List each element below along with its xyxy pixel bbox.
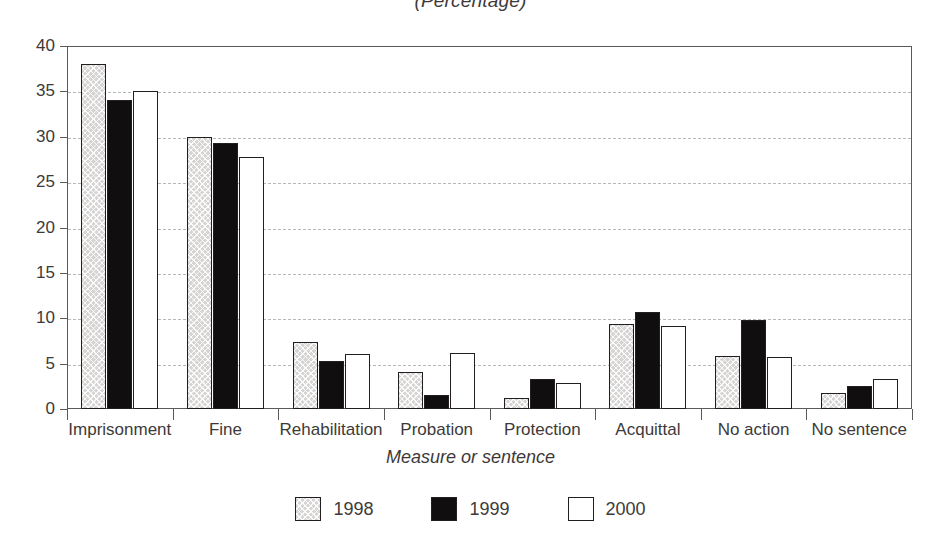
x-tick-label: Imprisonment: [68, 420, 171, 440]
x-tick-label: Rehabilitation: [280, 420, 383, 440]
gridline: [68, 319, 911, 320]
x-axis-title: Measure or sentence: [0, 447, 941, 468]
y-tick-label: 25: [11, 172, 55, 192]
y-tick-mark: [60, 228, 67, 229]
y-tick-label: 15: [11, 263, 55, 283]
y-tick-mark: [60, 137, 67, 138]
x-tick-mark: [806, 409, 807, 420]
x-tick-mark: [490, 409, 491, 420]
y-tick-mark: [60, 91, 67, 92]
x-tick-mark: [595, 409, 596, 420]
chart-legend: 199819992000: [0, 497, 941, 521]
y-tick-label: 35: [11, 81, 55, 101]
chart-page: (Percentage) 0510152025303540 Percentage…: [0, 0, 941, 547]
gridline: [68, 138, 911, 139]
y-tick-mark: [60, 182, 67, 183]
gridline: [68, 229, 911, 230]
legend-swatch: [295, 497, 321, 521]
x-tick-mark: [67, 409, 68, 420]
legend-item[interactable]: 1998: [295, 497, 373, 521]
gridline: [68, 365, 911, 366]
y-tick-label: 20: [11, 218, 55, 238]
plot-area: [67, 46, 912, 409]
chart-subtitle: (Percentage): [0, 0, 941, 12]
y-tick-label: 5: [11, 354, 55, 374]
y-tick-label: 10: [11, 308, 55, 328]
y-tick-mark: [60, 364, 67, 365]
gridline: [68, 183, 911, 184]
x-tick-mark: [173, 409, 174, 420]
legend-item[interactable]: 2000: [568, 497, 646, 521]
x-tick-mark: [278, 409, 279, 420]
x-tick-label: Probation: [400, 420, 473, 440]
x-tick-label: Fine: [209, 420, 242, 440]
x-tick-label: Acquittal: [615, 420, 680, 440]
legend-swatch: [431, 497, 457, 521]
legend-label: 1998: [333, 499, 373, 520]
x-tick-mark: [384, 409, 385, 420]
y-tick-mark: [60, 273, 67, 274]
gridline: [68, 274, 911, 275]
y-tick-label: 30: [11, 127, 55, 147]
y-tick-mark: [60, 318, 67, 319]
y-tick-label: 0: [11, 399, 55, 419]
legend-label: 2000: [606, 499, 646, 520]
gridline: [68, 92, 911, 93]
legend-item[interactable]: 1999: [431, 497, 509, 521]
x-tick-mark: [912, 409, 913, 420]
x-tick-label: No sentence: [811, 420, 906, 440]
legend-swatch: [568, 497, 594, 521]
y-tick-mark: [60, 46, 67, 47]
y-tick-mark: [60, 409, 67, 410]
legend-label: 1999: [469, 499, 509, 520]
y-tick-label: 40: [11, 36, 55, 56]
x-tick-label: Protection: [504, 420, 581, 440]
x-tick-mark: [701, 409, 702, 420]
x-tick-label: No action: [718, 420, 790, 440]
